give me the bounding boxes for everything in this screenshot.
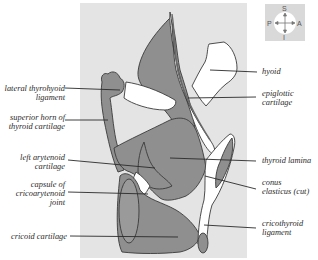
capsule-oval bbox=[119, 179, 139, 243]
compass-anterior-label: A bbox=[297, 20, 302, 27]
label-lateral-thyrohyoid-ligament: lateral thyrohyoid ligament bbox=[2, 84, 65, 102]
compass-inferior-label: I bbox=[283, 34, 285, 41]
label-capsule-of-cricoarytenoid-joint: capsule of cricoarytenoid joint bbox=[2, 180, 65, 207]
label-cricothyroid-ligament: cricothyroid ligament bbox=[262, 219, 303, 237]
compass-posterior-label: P bbox=[267, 20, 272, 27]
label-superior-horn-of-thyroid-cartilage: superior horn of thyroid cartilage bbox=[2, 113, 65, 131]
leader-cricothyroid bbox=[204, 225, 256, 228]
label-thyroid-lamina: thyroid lamina bbox=[262, 156, 311, 165]
label-cricoid-cartilage: cricoid cartilage bbox=[2, 232, 67, 241]
orientation-compass-icon: S I P A bbox=[265, 4, 305, 41]
label-epiglottic-cartilage: epiglottic cartilage bbox=[262, 89, 294, 107]
label-hyoid: hyoid bbox=[262, 67, 281, 76]
leader-epiglottic bbox=[188, 97, 256, 98]
label-left-arytenoid-cartilage: left arytenoid cartilage bbox=[2, 153, 65, 171]
label-conus-elasticus: conus elasticus (cut) bbox=[262, 178, 309, 196]
hyoid-shape bbox=[192, 42, 237, 106]
compass-superior-label: S bbox=[282, 5, 287, 12]
cricoid-anterior-ring bbox=[198, 233, 208, 253]
